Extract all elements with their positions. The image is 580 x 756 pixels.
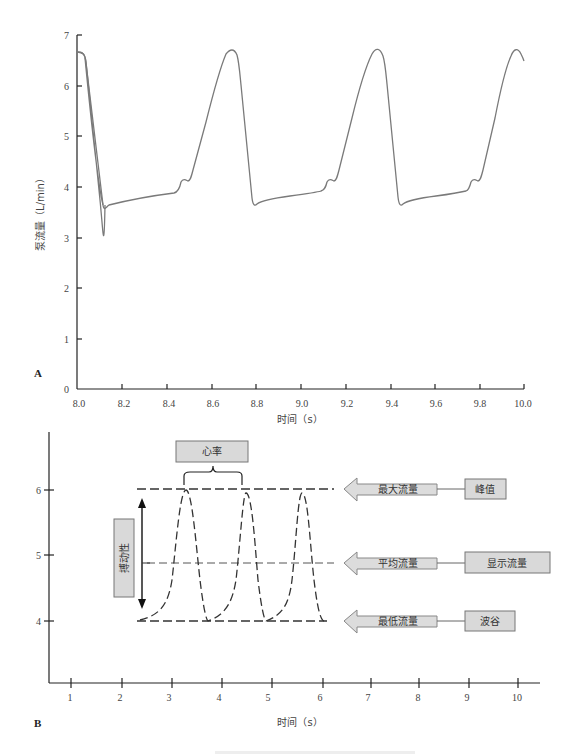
mean-flow-callout: 平均流量 显示流量 (344, 552, 550, 575)
y-tick-label: 6 (36, 485, 41, 496)
max-flow-label: 最大流量 (378, 483, 418, 495)
x-tick-label: 8.6 (207, 398, 220, 409)
max-flow-callout: 最大流量 峰值 (344, 478, 506, 501)
x-tick-label: 9.6 (430, 398, 443, 409)
y-tick-label: 6 (64, 81, 69, 92)
x-tick-label: 9.0 (296, 398, 309, 409)
x-tick-label: 1 (68, 692, 73, 703)
panel-a-x-axis-title: 时间（s） (277, 413, 322, 425)
panel-b-pulse-waveform (140, 490, 324, 621)
arrow-down-icon (138, 599, 146, 609)
panel-a-x-tick-labels: 8.0 8.2 8.4 8.6 8.8 9.0 9.2 9.4 9.6 9.8 … (73, 398, 532, 409)
x-tick-label: 9.4 (386, 398, 399, 409)
panel-a-flow-curve (77, 52, 105, 236)
x-tick-label: 5 (266, 692, 271, 703)
x-tick-label: 8 (416, 692, 421, 703)
displayed-flow-label: 显示流量 (487, 557, 527, 569)
x-tick-label: 7 (366, 692, 371, 703)
y-tick-label: 4 (64, 182, 69, 193)
panel-a-y-tick-labels: 0 1 2 3 4 5 6 7 (64, 30, 69, 395)
x-tick-label: 6 (318, 692, 323, 703)
x-tick-label: 4 (217, 692, 222, 703)
min-flow-label: 最低流量 (378, 615, 418, 627)
x-tick-label: 10.0 (514, 398, 532, 409)
pulsatility-label: 搏动性 (118, 543, 130, 573)
panel-a-label: A (34, 367, 42, 379)
panel-a-y-ticks (77, 35, 82, 339)
y-tick-label: 4 (36, 616, 41, 627)
x-tick-label: 9 (465, 692, 470, 703)
x-tick-label: 3 (167, 692, 172, 703)
y-tick-label: 0 (64, 384, 69, 395)
mean-flow-label: 平均流量 (378, 557, 418, 569)
y-tick-label: 5 (36, 550, 41, 561)
x-tick-label: 8.8 (251, 398, 264, 409)
y-tick-label: 3 (64, 233, 69, 244)
arrow-up-icon (138, 498, 146, 508)
pulsatility-annotation: 搏动性 (114, 498, 150, 609)
trough-label: 波谷 (480, 615, 500, 627)
heart-rate-brace (184, 466, 242, 485)
panel-a: 0 1 2 3 4 5 6 7 8.0 8.2 8.4 8.6 (34, 30, 532, 425)
panel-b-x-axis-title: 时间（s） (277, 716, 322, 728)
x-tick-label: 8.0 (73, 398, 86, 409)
figure: 0 1 2 3 4 5 6 7 8.0 8.2 8.4 8.6 (0, 0, 580, 756)
x-tick-label: 2 (118, 692, 123, 703)
x-tick-label: 8.2 (118, 398, 131, 409)
y-tick-label: 5 (64, 131, 69, 142)
y-tick-label: 2 (64, 283, 69, 294)
x-tick-label: 8.4 (163, 398, 176, 409)
panel-b: 6 5 4 1 2 3 4 5 6 7 8 9 10 时间（s） (34, 432, 550, 729)
panel-a-x-ticks (122, 384, 524, 389)
panel-b-label: B (34, 717, 42, 729)
figure-caption-fragment (215, 751, 415, 754)
panel-b-x-tick-labels: 1 2 3 4 5 6 7 8 9 10 (68, 692, 523, 703)
heart-rate-annotation: 心率 (176, 441, 248, 485)
panel-a-flow-curve-main (77, 49, 524, 208)
x-tick-label: 9.2 (341, 398, 354, 409)
min-flow-callout: 最低流量 波谷 (344, 610, 515, 633)
x-tick-label: 10 (512, 692, 522, 703)
y-tick-label: 1 (64, 334, 69, 345)
y-tick-label: 7 (64, 30, 69, 41)
peak-label: 峰值 (475, 483, 495, 495)
heart-rate-label: 心率 (202, 445, 222, 457)
x-tick-label: 9.8 (474, 398, 487, 409)
panel-a-y-axis-title: 泵流量（L/min） (34, 173, 46, 251)
